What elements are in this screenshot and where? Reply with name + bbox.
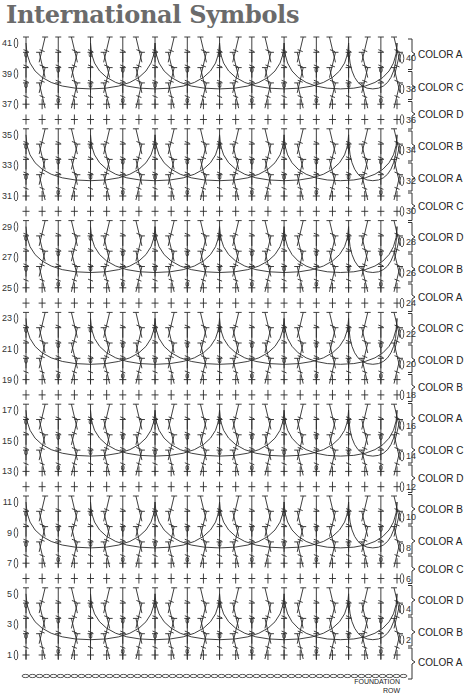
stitch-grid xyxy=(22,37,407,678)
row-number-left: 23 xyxy=(2,313,12,323)
row-number-left: 37 xyxy=(2,99,12,109)
color-label: COLOR D xyxy=(418,232,464,243)
row-number-right: 10 xyxy=(406,512,416,522)
left-row-numbers: 4139373533312927252321191715131197531 xyxy=(2,38,18,660)
color-label: COLOR A xyxy=(418,413,463,424)
color-label: COLOR B xyxy=(418,382,463,393)
row-number-left: 17 xyxy=(2,405,12,415)
color-label: COLOR A xyxy=(418,292,463,303)
row-number-left: 25 xyxy=(2,283,12,293)
row-number-left: 15 xyxy=(2,436,12,446)
color-label: COLOR B xyxy=(418,264,463,275)
row-number-left: 19 xyxy=(2,375,12,385)
row-number-right: 4 xyxy=(406,604,411,614)
row-number-right: 36 xyxy=(406,115,416,125)
color-label: COLOR B xyxy=(418,627,463,638)
row-number-right: 12 xyxy=(406,482,416,492)
color-label: COLOR C xyxy=(418,445,464,456)
row-number-left: 27 xyxy=(2,252,12,262)
row-number-right: 30 xyxy=(406,206,416,216)
color-label: COLOR C xyxy=(418,201,464,212)
row-number-right: 14 xyxy=(406,451,416,461)
row-number-left: 29 xyxy=(2,222,12,232)
crochet-chart: 4139373533312927252321191715131197531 40… xyxy=(0,0,470,699)
row-number-left: 33 xyxy=(2,160,12,170)
color-label: COLOR D xyxy=(418,355,464,366)
color-label: COLOR B xyxy=(418,504,463,515)
row-number-right: 38 xyxy=(406,84,416,94)
color-label: COLOR C xyxy=(418,564,464,575)
foundation-label-line1: FOUNDATION xyxy=(354,678,400,685)
row-number-left: 11 xyxy=(3,497,12,507)
row-number-right: 8 xyxy=(406,543,411,553)
row-number-left: 9 xyxy=(7,528,12,538)
row-number-left: 13 xyxy=(2,466,12,476)
row-number-right: 2 xyxy=(406,635,411,645)
row-number-right: 22 xyxy=(406,329,416,339)
row-number-left: 3 xyxy=(7,619,12,629)
row-number-right: 16 xyxy=(406,421,416,431)
row-number-right: 24 xyxy=(406,298,416,308)
color-label: COLOR C xyxy=(418,82,464,93)
color-label: COLOR B xyxy=(418,141,463,152)
color-label: COLOR A xyxy=(418,49,463,60)
color-label: COLOR A xyxy=(418,536,463,547)
row-number-left: 35 xyxy=(2,130,12,140)
color-label: COLOR D xyxy=(418,473,464,484)
color-label: COLOR A xyxy=(418,173,463,184)
row-number-left: 31 xyxy=(2,191,12,201)
row-number-left: 7 xyxy=(7,558,12,568)
row-number-right: 6 xyxy=(406,574,411,584)
color-labels: COLOR ACOLOR CCOLOR DCOLOR BCOLOR ACOLOR… xyxy=(418,49,464,668)
row-number-left: 21 xyxy=(2,344,12,354)
color-label: COLOR D xyxy=(418,109,464,120)
foundation-label-line2: ROW xyxy=(383,687,401,694)
row-number-right: 28 xyxy=(406,237,416,247)
row-number-left: 39 xyxy=(2,69,12,79)
color-label: COLOR D xyxy=(418,595,464,606)
row-number-left: 5 xyxy=(7,589,12,599)
color-label: COLOR C xyxy=(418,323,464,334)
color-label: COLOR A xyxy=(418,657,463,668)
row-number-right: 18 xyxy=(406,390,416,400)
row-number-left: 41 xyxy=(2,38,12,48)
row-number-left: 1 xyxy=(7,650,12,660)
